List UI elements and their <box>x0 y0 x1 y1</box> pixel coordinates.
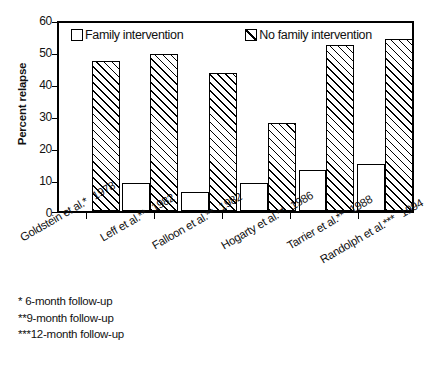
legend-swatch-open-icon <box>71 29 83 41</box>
bar-leff-no-family <box>150 54 178 211</box>
y-tick-label-40: 40 <box>24 79 52 91</box>
legend-swatch-hatched-icon <box>245 29 257 41</box>
legend-item-no-family-intervention: No family intervention <box>245 28 372 42</box>
bar-hogarty-family <box>240 183 268 211</box>
y-tick-label-50: 50 <box>24 47 52 59</box>
bar-falloon-no-family <box>209 73 237 211</box>
relapse-bar-chart: Percent relapse 60 50 40 30 20 10 0 Fami… <box>0 0 425 367</box>
legend-label-nofamily: No family intervention <box>259 28 372 42</box>
x-axis-labels: Goldstein et al.*1978 Leff et al.**1982 … <box>0 213 425 293</box>
legend-item-family-intervention: Family intervention <box>71 28 183 42</box>
footnote-6-month: * 6-month follow-up <box>18 293 278 310</box>
legend-label-family: Family intervention <box>85 28 183 42</box>
footnote-12-month: ***12-month follow-up <box>18 326 278 343</box>
y-tick-label-60: 60 <box>24 15 52 27</box>
legend: Family intervention No family interventi… <box>65 25 410 45</box>
y-tick-label-20: 20 <box>24 143 52 155</box>
y-tick-label-30: 30 <box>24 111 52 123</box>
y-axis-ticks: 60 50 40 30 20 10 0 <box>24 15 52 215</box>
footnote-9-month: **9-month follow-up <box>18 310 278 327</box>
bar-tarrier-no-family <box>326 45 354 211</box>
y-tick-label-10: 10 <box>24 175 52 187</box>
bar-randolph-no-family <box>385 39 413 211</box>
footnotes: * 6-month follow-up **9-month follow-up … <box>18 293 278 343</box>
